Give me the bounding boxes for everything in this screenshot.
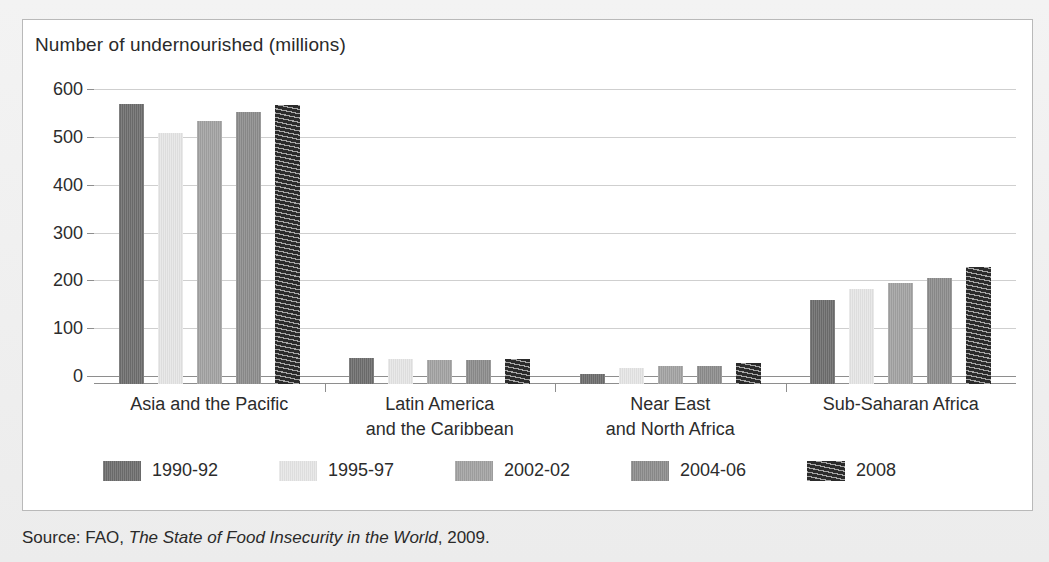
bar[interactable] (580, 374, 605, 384)
bar[interactable] (619, 368, 644, 384)
bar-group (325, 82, 556, 392)
bar[interactable] (236, 112, 261, 384)
y-tick-mark-100 (87, 328, 94, 329)
legend-label: 2008 (856, 460, 896, 481)
legend-swatch (455, 461, 493, 481)
legend-swatch (631, 461, 669, 481)
bar-groups (94, 82, 1016, 384)
bar[interactable] (927, 278, 952, 384)
bar[interactable] (119, 104, 144, 384)
source-suffix: , 2009. (438, 528, 490, 547)
chart-legend: 1990-921995-972002-022004-062008 (103, 460, 983, 481)
y-tick-mark-0 (87, 376, 94, 377)
category-label: Asia and the Pacific (94, 392, 325, 442)
legend-swatch (279, 461, 317, 481)
y-tick-label-400: 400 (53, 174, 83, 195)
y-tick-label-0: 0 (73, 366, 83, 387)
legend-item[interactable]: 1995-97 (279, 460, 455, 481)
y-tick-mark-600 (87, 89, 94, 90)
y-tick-label-200: 200 (53, 270, 83, 291)
chart-title: Number of undernourished (millions) (35, 34, 346, 56)
category-label-line: Sub-Saharan Africa (786, 392, 1017, 417)
bar[interactable] (388, 359, 413, 384)
bar[interactable] (197, 121, 222, 384)
legend-item[interactable]: 2004-06 (631, 460, 807, 481)
bar-group (94, 82, 325, 392)
bar[interactable] (888, 283, 913, 384)
page-background: Number of undernourished (millions) 0100… (0, 0, 1049, 562)
category-labels: Asia and the PacificLatin Americaand the… (94, 392, 1016, 442)
category-label-line: Latin America (325, 392, 556, 417)
legend-swatch (807, 461, 845, 481)
y-tick-mark-300 (87, 233, 94, 234)
y-tick-mark-500 (87, 137, 94, 138)
bar[interactable] (505, 359, 530, 384)
bar[interactable] (466, 360, 491, 384)
category-label-line: Near East (555, 392, 786, 417)
category-label: Latin Americaand the Caribbean (325, 392, 556, 442)
category-label-line: and the Caribbean (325, 417, 556, 442)
legend-item[interactable]: 2008 (807, 460, 983, 481)
group-separator-tick (555, 384, 556, 392)
legend-item[interactable]: 2002-02 (455, 460, 631, 481)
bar-group (786, 82, 1017, 392)
legend-label: 1990-92 (152, 460, 218, 481)
group-separator-tick (786, 384, 787, 392)
plot-area: 0100200300400500600 (94, 82, 1016, 384)
y-tick-label-600: 600 (53, 79, 83, 100)
y-tick-label-500: 500 (53, 126, 83, 147)
y-tick-label-100: 100 (53, 318, 83, 339)
group-separator-tick (325, 384, 326, 392)
y-tick-mark-400 (87, 185, 94, 186)
category-label-line: and North Africa (555, 417, 786, 442)
legend-label: 1995-97 (328, 460, 394, 481)
chart-frame: Number of undernourished (millions) 0100… (22, 19, 1033, 511)
source-publication-title: The State of Food Insecurity in the Worl… (129, 528, 438, 547)
bar[interactable] (427, 360, 452, 384)
category-label: Near Eastand North Africa (555, 392, 786, 442)
legend-swatch (103, 461, 141, 481)
bar[interactable] (275, 105, 300, 384)
y-tick-label-300: 300 (53, 222, 83, 243)
legend-item[interactable]: 1990-92 (103, 460, 279, 481)
bar[interactable] (849, 289, 874, 384)
bar-group (555, 82, 786, 392)
y-tick-mark-200 (87, 280, 94, 281)
bar[interactable] (349, 358, 374, 384)
bar[interactable] (736, 363, 761, 384)
source-note: Source: FAO, The State of Food Insecurit… (22, 528, 490, 548)
bar[interactable] (966, 267, 991, 384)
bar[interactable] (158, 133, 183, 384)
legend-label: 2004-06 (680, 460, 746, 481)
category-label-line: Asia and the Pacific (94, 392, 325, 417)
bar[interactable] (810, 300, 835, 384)
category-label: Sub-Saharan Africa (786, 392, 1017, 442)
source-prefix: Source: FAO, (22, 528, 129, 547)
legend-label: 2002-02 (504, 460, 570, 481)
bar[interactable] (697, 366, 722, 384)
bar[interactable] (658, 366, 683, 384)
